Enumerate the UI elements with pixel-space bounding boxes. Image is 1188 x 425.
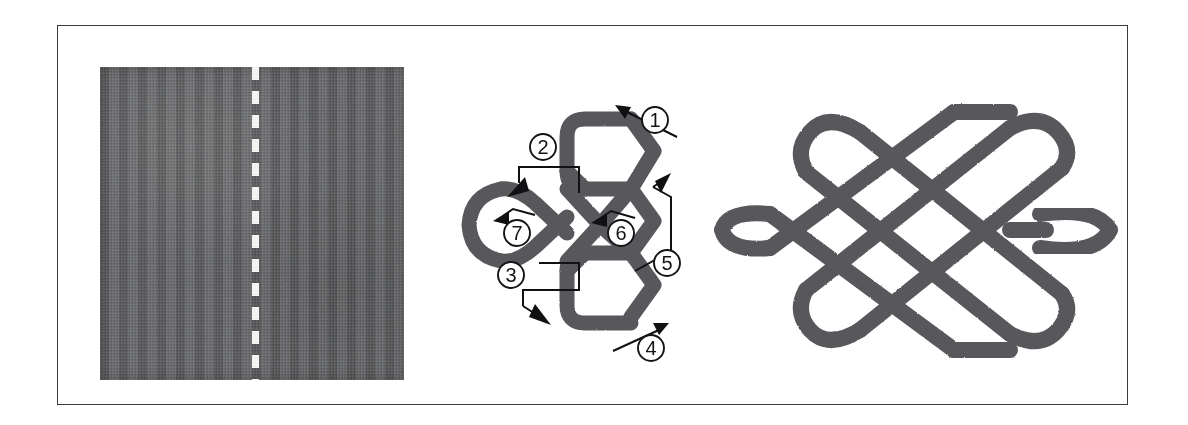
step-label-5: 5: [661, 252, 672, 274]
figure-root: 1 2 3 4: [0, 0, 1188, 425]
finished-right-loop: [1010, 212, 1110, 250]
finished-endless-knot: [710, 110, 1125, 350]
folded-fabric-swatch: [100, 67, 404, 380]
step-label-1: 1: [649, 109, 660, 131]
step-label-6: 6: [615, 222, 626, 244]
step-label-4: 4: [645, 337, 656, 359]
step-label-7: 7: [511, 222, 522, 244]
finished-knot-diagram: [710, 110, 1125, 350]
step-marker-7: 7: [493, 209, 535, 246]
step-label-2: 2: [537, 136, 548, 158]
fold-dashed-line: [252, 67, 259, 380]
step-label-3: 3: [505, 264, 516, 286]
knot-weaving-steps: 1 2 3 4: [455, 85, 705, 370]
steps-diagram: 1 2 3 4: [455, 85, 705, 370]
